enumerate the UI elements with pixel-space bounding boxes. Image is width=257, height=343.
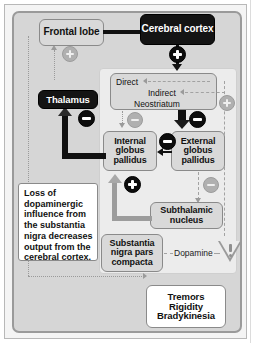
node-cerebral-cortex[interactable]: Cerebral cortex	[140, 14, 215, 45]
subthalamic-to-internal-gp-vertical	[112, 183, 117, 219]
node-external-globus-pallidus-label: External globus pallidus	[172, 137, 224, 165]
node-thalamus-label: Thalamus	[46, 95, 90, 105]
badge-external-to-internal-gp	[159, 133, 176, 150]
direct-to-internal-gp-arrowhead	[119, 123, 125, 128]
badge-subthalamic-to-internal-gp	[124, 176, 141, 193]
node-frontal-lobe-label: Frontal lobe	[43, 27, 99, 37]
badge-direct-to-internal-gp	[127, 112, 143, 128]
internal-gp-input-arrowhead	[108, 174, 122, 183]
badge-internal-gp-to-thalamus	[78, 110, 95, 127]
decreased-dopamine-warning-icon	[218, 241, 242, 262]
internal-gp-to-thalamus-horizontal	[62, 153, 106, 159]
badge-indirect-to-external-gp	[189, 111, 206, 128]
node-subthalamic-nucleus-label: Subthalamic nucleus	[151, 206, 222, 225]
info-note: Loss of dopaminergic influence from the …	[18, 183, 98, 261]
symptom-line-3: Bradykinesia	[157, 311, 215, 321]
cortical-output-dotted-path-horizontal	[28, 276, 144, 277]
node-frontal-lobe[interactable]: Frontal lobe	[39, 19, 104, 46]
external-gp-to-subthalamic-path	[198, 172, 199, 200]
badge-cortex-to-neostriatum	[169, 46, 186, 63]
indirect-input-arrowhead	[180, 89, 184, 95]
badge-external-gp-to-subthalamic	[203, 177, 219, 193]
node-substantia-nigra-pars-compacta[interactable]: Substantia nigra pars compacta	[101, 234, 163, 272]
symptoms-arrowhead	[143, 273, 147, 279]
internal-gp-to-thalamus-vertical	[62, 116, 68, 156]
indirect-dashed-input	[185, 92, 225, 93]
node-cerebral-cortex-label: Cerebral cortex	[142, 24, 214, 34]
indirect-to-external-gp-arrowhead	[174, 120, 190, 129]
direct-dashed-input	[148, 81, 210, 82]
badge-indirect-dopamine-plus	[219, 95, 235, 111]
node-symptoms[interactable]: Tremors Rigidity Bradykinesia	[146, 285, 226, 328]
node-internal-globus-pallidus-label: Internal globus pallidus	[104, 137, 156, 165]
node-direct-label: Direct	[116, 77, 138, 87]
direct-input-arrowhead	[143, 78, 147, 84]
dopamine-label: Dopamine	[174, 248, 213, 258]
thalamus-to-frontal-dotted-path	[54, 50, 55, 80]
node-thalamus[interactable]: Thalamus	[38, 90, 98, 109]
right-margin-strip	[250, 0, 257, 343]
node-external-globus-pallidus[interactable]: External globus pallidus	[171, 131, 225, 171]
node-indirect-label: Indirect	[148, 88, 176, 98]
node-subthalamic-nucleus[interactable]: Subthalamic nucleus	[150, 202, 223, 229]
node-neostriatum-label: Neostriatum	[134, 99, 180, 109]
frontal-to-cortex-connector	[103, 30, 142, 34]
badge-thalamus-to-frontal-lobe	[62, 46, 78, 62]
external-to-internal-gp-line	[162, 151, 172, 153]
subthalamic-to-internal-gp-horizontal	[112, 216, 152, 221]
node-substantia-nigra-label: Substantia nigra pars compacta	[102, 239, 162, 267]
cortex-to-neostriatum-arrowhead	[172, 64, 182, 71]
diagram-canvas: Frontal lobe Cerebral cortex Direct Indi…	[0, 0, 257, 343]
node-internal-globus-pallidus[interactable]: Internal globus pallidus	[103, 131, 157, 171]
dopamine-dashed-left	[164, 253, 173, 254]
